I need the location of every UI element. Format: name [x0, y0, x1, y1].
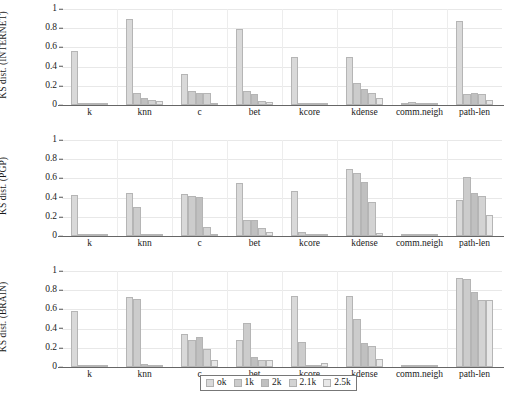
legend-item-2-1k[interactable]: 2.1k	[289, 378, 317, 388]
y-axis-tick-label: 1	[52, 135, 57, 145]
x-axis-tick-label: kcore	[299, 239, 320, 249]
bar-2k	[141, 98, 149, 105]
bar-2-1k	[93, 365, 101, 367]
y-axis-tick-label: 1	[52, 4, 57, 14]
y-axis-tick-label: 0.4	[45, 62, 57, 72]
bar-1k	[243, 220, 251, 236]
y-axis-tick-label: 0.6	[45, 43, 57, 53]
bar-2-5k	[266, 360, 274, 367]
bar-2k	[471, 193, 479, 236]
bar-2k	[196, 337, 204, 367]
bar-1k	[408, 234, 416, 236]
bar-2-5k	[101, 365, 109, 367]
legend-item-2-5k[interactable]: 2.5k	[323, 378, 351, 388]
bar-group	[447, 140, 502, 236]
bar-group	[117, 271, 172, 367]
bar-2-1k	[258, 228, 266, 236]
y-axis-tick-label: 0	[52, 100, 57, 110]
bar-1k	[133, 93, 141, 105]
bar-ok	[126, 193, 134, 236]
figure-bar-chart-ks-distance: KS dist. (INTERNET) 00.20.40.60.81kknncb…	[0, 0, 520, 409]
bar-2k	[196, 93, 204, 105]
bar-1k	[243, 323, 251, 367]
bar-ok	[236, 183, 244, 236]
panel-internet: KS dist. (INTERNET) 00.20.40.60.81kknncb…	[0, 0, 520, 131]
y-axis-tick-label: 0.4	[45, 324, 57, 334]
bar-1k	[463, 279, 471, 367]
bar-2-1k	[368, 202, 376, 236]
bar-group	[227, 140, 282, 236]
bar-group	[172, 140, 227, 236]
legend-label: 2k	[272, 378, 282, 388]
bar-2k	[141, 234, 149, 236]
bar-group	[62, 140, 117, 236]
bar-ok	[401, 365, 409, 367]
legend-swatch-icon	[234, 379, 242, 387]
legend-item-1k[interactable]: 1k	[234, 378, 255, 388]
bar-2k	[86, 103, 94, 105]
bar-2-5k	[101, 103, 109, 105]
bar-ok	[126, 297, 134, 367]
x-axis-tick-label: bet	[249, 239, 261, 249]
bar-group	[117, 140, 172, 236]
bar-ok	[346, 57, 354, 105]
bar-2-5k	[321, 363, 329, 367]
bar-2-1k	[203, 93, 211, 105]
panel-brain: KS dist. (BRAIN) 00.20.40.60.81kknncbetk…	[0, 262, 520, 393]
legend-swatch-icon	[323, 379, 331, 387]
bar-2-1k	[313, 103, 321, 105]
bar-2k	[306, 103, 314, 105]
y-axis-tick-label: 0.2	[45, 212, 57, 222]
y-axis-tick-label: 1	[52, 266, 57, 276]
bar-ok	[291, 191, 299, 236]
bar-1k	[408, 102, 416, 105]
bar-2k	[416, 365, 424, 367]
bar-group	[282, 9, 337, 105]
legend-item-2k[interactable]: 2k	[261, 378, 282, 388]
bar-2-1k	[203, 349, 211, 367]
bar-2-1k	[313, 365, 321, 367]
bar-group	[117, 9, 172, 105]
bar-2-5k	[266, 232, 274, 236]
bar-2-1k	[478, 94, 486, 105]
x-axis-tick-label: k	[87, 370, 92, 380]
bar-2-5k	[431, 365, 439, 367]
bar-2-5k	[211, 234, 219, 236]
bar-2k	[196, 197, 204, 236]
bar-2k	[471, 292, 479, 367]
bar-2k	[416, 103, 424, 105]
bar-ok	[291, 296, 299, 367]
bar-2-5k	[376, 98, 384, 105]
x-axis-tick-label: knn	[137, 239, 151, 249]
x-axis-tick-label: c	[197, 239, 201, 249]
bar-2k	[361, 343, 369, 367]
bar-2k	[416, 234, 424, 236]
legend-item-ok[interactable]: ok	[206, 378, 227, 388]
bar-ok	[181, 74, 189, 105]
bar-2k	[251, 220, 259, 236]
bar-2-5k	[156, 365, 164, 367]
bar-group	[337, 140, 392, 236]
x-axis-tick-label: path-len	[459, 108, 490, 118]
bar-group	[227, 9, 282, 105]
bar-ok	[456, 21, 464, 105]
chart-legend: ok1k2k2.1k2.5k	[200, 375, 357, 391]
bar-2-1k	[423, 234, 431, 236]
bar-2-5k	[211, 103, 219, 105]
bar-ok	[181, 334, 189, 367]
bar-2-1k	[313, 234, 321, 236]
bar-2-1k	[203, 227, 211, 236]
bar-2-1k	[93, 103, 101, 105]
legend-label: ok	[217, 378, 227, 388]
bar-1k	[78, 234, 86, 236]
bar-group	[282, 140, 337, 236]
panel-pgp: KS dist. (PGP) 00.20.40.60.81kknncbetkco…	[0, 131, 520, 262]
x-axis-tick-label: comm.neigh	[396, 108, 443, 118]
y-axis-tick-label: 0.8	[45, 23, 57, 33]
bar-2k	[251, 357, 259, 367]
y-axis-tick-label: 0.4	[45, 193, 57, 203]
y-axis-tick-label: 0.6	[45, 174, 57, 184]
bar-group	[172, 271, 227, 367]
bar-1k	[133, 207, 141, 236]
bar-2-5k	[101, 234, 109, 236]
